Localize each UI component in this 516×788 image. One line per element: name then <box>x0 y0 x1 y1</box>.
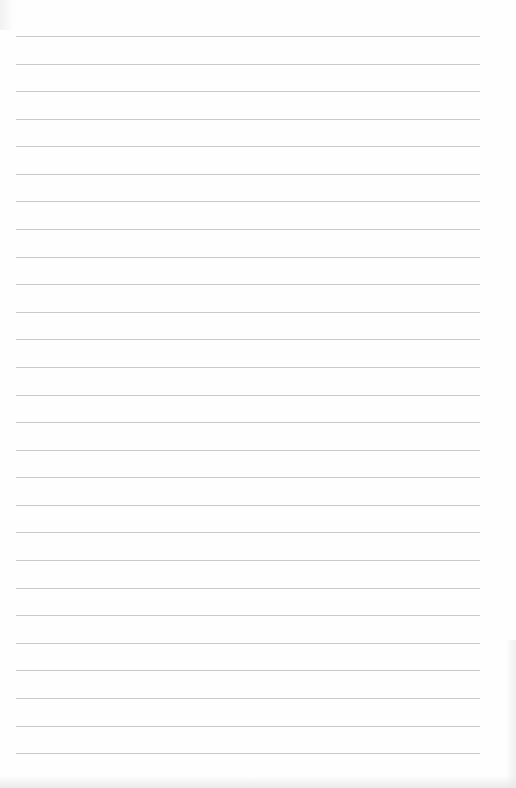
ruled-line <box>16 450 480 451</box>
ruled-line <box>16 505 480 506</box>
ruled-line <box>16 312 480 313</box>
ruled-line <box>16 174 480 175</box>
ruled-line <box>16 257 480 258</box>
scan-edge-shadow <box>506 640 516 788</box>
ruled-line <box>16 395 480 396</box>
ruled-line <box>16 201 480 202</box>
lined-paper-page <box>0 0 516 788</box>
ruled-line <box>16 119 480 120</box>
scan-edge-shadow <box>0 0 14 30</box>
ruled-line <box>16 643 480 644</box>
ruled-line <box>16 339 480 340</box>
ruled-line <box>16 229 480 230</box>
ruled-line <box>16 284 480 285</box>
ruled-line <box>16 36 480 37</box>
ruled-line <box>16 560 480 561</box>
ruled-line <box>16 91 480 92</box>
ruled-line <box>16 367 480 368</box>
ruled-line <box>16 726 480 727</box>
ruled-line <box>16 477 480 478</box>
scan-edge-shadow <box>0 776 516 788</box>
ruled-line <box>16 698 480 699</box>
ruled-line <box>16 753 480 754</box>
ruled-line <box>16 670 480 671</box>
ruled-line <box>16 532 480 533</box>
ruled-line <box>16 64 480 65</box>
ruled-line <box>16 615 480 616</box>
ruled-line <box>16 422 480 423</box>
ruled-line <box>16 588 480 589</box>
ruled-line <box>16 146 480 147</box>
